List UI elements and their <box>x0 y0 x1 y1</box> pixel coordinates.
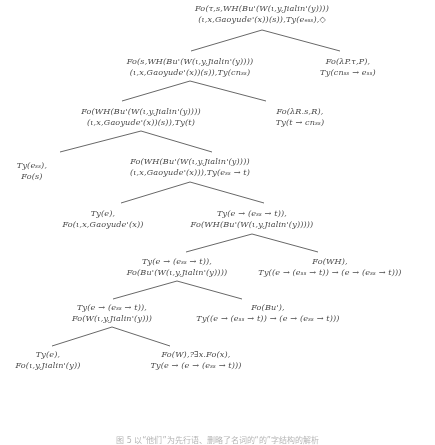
tree-node-line2: (ι,x,Gaoyude'(x))(s)),Ty(cnₛₛ) <box>127 67 254 78</box>
tree-node-line2: (ι,x,Gaoyude'(x))(s)),Ty(t) <box>81 117 201 128</box>
tree-node-line2: Fo(ι,x,Gaoyude'(x)) <box>62 219 143 230</box>
tree-node-line2: (ι,x,Gaoyude'(x))(s)),Ty(eₑₛₛ),◇ <box>195 14 329 25</box>
tree-node-line2: (ι,x,Gaoyude'(x))),Ty(eₛₛ → t) <box>130 167 250 178</box>
tree-edge <box>112 327 170 346</box>
tree-node-line1: Fo(s,WH(Bu'(W(ι,y,Jialin'(y)))) <box>127 56 254 67</box>
tree-edge <box>262 30 340 51</box>
tree-edge <box>190 182 264 203</box>
tree-node-line2: Ty(cnₛₛ → eₛₛ) <box>320 67 376 78</box>
tree-node-line2: Fo(WH(Bu'(W(ι,y,Jialin'(y))))) <box>191 219 314 230</box>
tree-node-line2: Ty((e → (eₛₛ → t)) → (e → (eₛₛ → t))) <box>258 267 401 278</box>
tree-node-line2: Fo(W(ι,y,Jialin'(y))) <box>72 313 152 324</box>
tree-edge <box>52 327 112 346</box>
tree-edge <box>141 131 212 152</box>
tree-node-line2: Fo(ι,y,Jialin'(y)) <box>15 360 80 371</box>
tree-node-line1: Ty(e → (eₛₛ → t)), <box>72 302 152 313</box>
tree-node-line2: Ty(e → (e → (eₛₛ → t))) <box>150 360 241 371</box>
tree-node-line1: Fo(WH), <box>258 256 401 267</box>
tree-node-line1: Ty(eₛₛ), <box>17 160 47 171</box>
tree-node-line1: Ty(e), <box>15 349 80 360</box>
tree-node-line1: Fo(WH(Bu'(W(ι,y,Jialin'(y)))) <box>81 106 201 117</box>
tree-node-line1: Fo(λP.τ,P), <box>320 56 376 67</box>
tree-edge <box>191 30 262 51</box>
tree-node-line1: Ty(e → (eₛₛ → t)), <box>191 208 314 219</box>
tree-node-line1: Ty(e → (eₛₛ → t)), <box>127 256 228 267</box>
tree-node-line1: Fo(Bu'), <box>196 302 339 313</box>
tree-edge <box>190 81 266 101</box>
tree-edge <box>177 281 242 299</box>
tree-node-line1: Fo(W),?∃x.Fo(x), <box>150 349 241 360</box>
tree-node-line1: Ty(e), <box>62 208 143 219</box>
tree-edge <box>60 131 141 152</box>
tree-edge <box>121 182 190 203</box>
tree-edge <box>252 234 318 252</box>
tree-node-line1: Fo(WH(Bu'(W(ι,y,Jialin'(y)))) <box>130 156 250 167</box>
tree-node-line2: Ty((e → (eₛₛ → t)) → (e → (eₛₛ → t))) <box>196 313 339 324</box>
tree-node-line2: Ty(t → cnₛₛ) <box>276 117 324 128</box>
tree-edge <box>122 81 190 101</box>
tree-edge <box>186 234 252 252</box>
tree-node-line1: Fo(λR.s,R), <box>276 106 324 117</box>
tree-node-line1: Fo(τ,s,WH(Bu'(W(ι,y,Jialin'(y)))) <box>195 3 329 14</box>
tree-node-line2: Fo(Bu'(W(ι,y,Jialin'(y)))) <box>127 267 228 278</box>
tree-node-line2: Fo(s) <box>17 171 47 182</box>
figure-caption: 图 5 以“他们”为先行语、删略了名词的“的”字结构的解析 <box>0 434 435 445</box>
tree-edge <box>113 281 177 299</box>
